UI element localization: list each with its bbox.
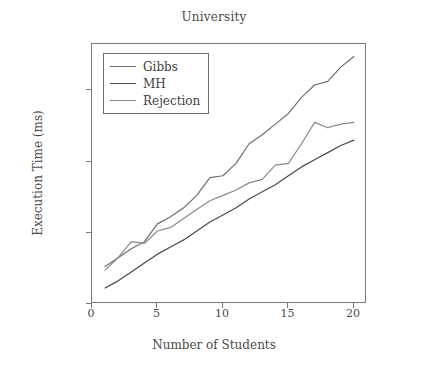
chart-figure: University Execution Time (ms) Number of… — [0, 0, 428, 367]
y-axis-label: Execution Time (ms) — [31, 73, 45, 273]
legend-swatch-icon — [110, 83, 136, 84]
series-line-rejection — [105, 122, 354, 270]
legend-item-rejection[interactable]: Rejection — [110, 92, 200, 109]
chart-title: University — [0, 10, 428, 24]
legend-label: Gibbs — [143, 60, 178, 74]
chart-legend: GibbsMHRejection — [103, 53, 209, 114]
legend-label: Rejection — [143, 94, 200, 108]
x-tick-label: 10 — [202, 307, 242, 320]
x-tick-label: 5 — [136, 307, 176, 320]
series-line-mh — [105, 140, 354, 288]
x-tick-label: 20 — [333, 307, 373, 320]
legend-swatch-icon — [110, 66, 136, 67]
x-tick-label: 0 — [71, 307, 111, 320]
legend-item-gibbs[interactable]: Gibbs — [110, 58, 200, 75]
legend-item-mh[interactable]: MH — [110, 75, 200, 92]
legend-label: MH — [143, 77, 166, 91]
x-tick-label: 15 — [267, 307, 307, 320]
x-axis-label: Number of Students — [0, 338, 428, 352]
legend-swatch-icon — [110, 100, 136, 101]
